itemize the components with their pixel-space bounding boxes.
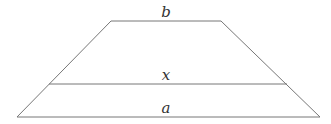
trapezoid-diagram: b x a	[0, 0, 331, 124]
label-top-base: b	[161, 3, 171, 21]
diagram-canvas: b x a	[0, 0, 331, 124]
label-middle-segment: x	[162, 66, 171, 84]
label-bottom-base: a	[162, 99, 171, 117]
